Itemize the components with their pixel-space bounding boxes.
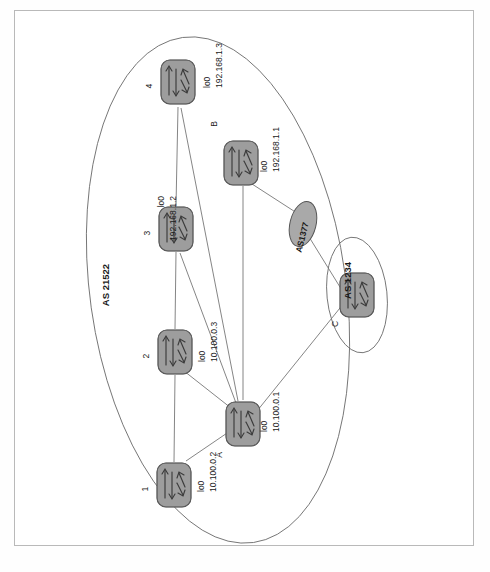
- router-1-name: 1: [140, 486, 150, 491]
- link-2-A: [184, 371, 231, 408]
- link-B-1377: [252, 184, 300, 215]
- router-a[interactable]: [226, 402, 260, 446]
- link-4-3: [176, 107, 178, 206]
- router-a-iface: lo0: [259, 420, 269, 432]
- router-2-iface: lo0: [197, 350, 207, 362]
- router-b[interactable]: [224, 141, 258, 185]
- routers: 4 lo0 192.168.1.3 3 lo0 192.168.1.2 2 lo…: [140, 43, 374, 507]
- network-topology-diagram: 4 lo0 192.168.1.3 3 lo0 192.168.1.2 2 lo…: [0, 0, 490, 572]
- router-a-name: A: [214, 452, 224, 458]
- router-b-name: B: [209, 121, 219, 127]
- router-a-ip: 10.100.0.1: [271, 392, 281, 432]
- as-1234-label: AS 1234: [342, 261, 353, 299]
- router-4-iface: lo0: [202, 76, 212, 88]
- router-4-ip: 192.168.1.3: [214, 43, 224, 88]
- links: [174, 107, 348, 462]
- router-1[interactable]: [157, 463, 191, 507]
- router-3-iface: lo0: [156, 196, 166, 208]
- router-b-iface: lo0: [259, 160, 269, 172]
- link-3-A: [180, 253, 236, 403]
- router-4[interactable]: [161, 60, 195, 104]
- link-2-1: [174, 375, 175, 462]
- router-3-ip: 192.168.1.2: [168, 196, 178, 241]
- router-3-name: 3: [142, 230, 152, 235]
- router-b-ip: 192.168.1.1: [271, 127, 281, 172]
- as-21522-label: AS 21522: [100, 264, 111, 306]
- router-c-name: C: [330, 321, 340, 327]
- router-2[interactable]: [158, 330, 192, 374]
- router-2-name: 2: [141, 353, 151, 358]
- router-2-ip: 10.100.0.3: [209, 322, 219, 362]
- router-1-iface: lo0: [196, 480, 206, 492]
- link-3-2: [175, 252, 176, 329]
- router-4-name: 4: [144, 83, 154, 88]
- figure-page: 4 lo0 192.168.1.3 3 lo0 192.168.1.2 2 lo…: [0, 0, 490, 572]
